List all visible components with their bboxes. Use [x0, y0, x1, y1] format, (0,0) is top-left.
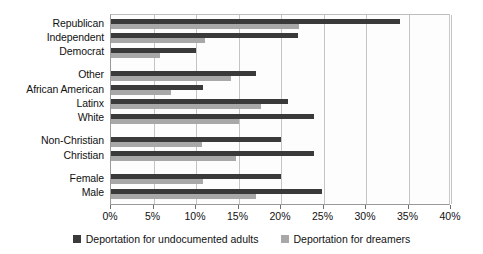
x-tick-label: 30% — [345, 210, 385, 222]
legend-item-adults[interactable]: Deportation for undocumented adults — [73, 233, 259, 245]
gridline — [366, 15, 367, 204]
category-label: Christian — [0, 150, 104, 161]
x-tick-mark — [408, 205, 409, 209]
category-label: Female — [0, 173, 104, 184]
x-tick-label: 20% — [260, 210, 300, 222]
category-label: Latinx — [0, 98, 104, 109]
category-label: Non-Christian — [0, 135, 104, 146]
gridline — [324, 15, 325, 204]
category-label: Democrat — [0, 46, 104, 57]
bar-dreamers — [111, 119, 239, 124]
bar-dreamers — [111, 156, 236, 161]
bar-dreamers — [111, 76, 231, 81]
x-tick-label: 35% — [388, 210, 428, 222]
bar-dreamers — [111, 53, 160, 58]
category-label: Republican — [0, 18, 104, 29]
x-tick-label: 40% — [430, 210, 470, 222]
bar-dreamers — [111, 104, 261, 109]
category-label: Other — [0, 69, 104, 80]
x-tick-mark — [450, 205, 451, 209]
category-label: Independent — [0, 32, 104, 43]
bar-dreamers — [111, 38, 205, 43]
plot-area — [110, 14, 450, 205]
legend-item-dreamers[interactable]: Deportation for dreamers — [281, 233, 411, 245]
x-tick-mark — [280, 205, 281, 209]
legend-label-dreamers: Deportation for dreamers — [294, 233, 411, 245]
gridline — [451, 15, 452, 204]
light-swatch-icon — [281, 235, 289, 243]
x-tick-label: 10% — [175, 210, 215, 222]
bar-dreamers — [111, 24, 299, 29]
bar-dreamers — [111, 179, 203, 184]
chart-legend: Deportation for undocumented adults Depo… — [0, 231, 483, 247]
bar-dreamers — [111, 142, 202, 147]
x-tick-label: 5% — [133, 210, 173, 222]
legend-label-adults: Deportation for undocumented adults — [86, 233, 259, 245]
category-axis: RepublicanIndependentDemocratOtherAfrica… — [0, 14, 106, 205]
bar-dreamers — [111, 90, 171, 95]
x-tick-mark — [110, 205, 111, 209]
gridline — [281, 15, 282, 204]
x-tick-mark — [365, 205, 366, 209]
category-label: African American — [0, 84, 104, 95]
x-tick-mark — [238, 205, 239, 209]
dark-swatch-icon — [73, 235, 81, 243]
x-axis: 0%5%10%15%20%25%30%35%40% — [110, 205, 450, 225]
x-tick-label: 25% — [303, 210, 343, 222]
x-tick-mark — [195, 205, 196, 209]
x-tick-label: 0% — [90, 210, 130, 222]
x-tick-label: 15% — [218, 210, 258, 222]
category-label: White — [0, 112, 104, 123]
x-tick-mark — [153, 205, 154, 209]
bar-chart: RepublicanIndependentDemocratOtherAfrica… — [0, 0, 483, 254]
gridline — [409, 15, 410, 204]
category-label: Male — [0, 187, 104, 198]
bar-dreamers — [111, 194, 256, 199]
x-tick-mark — [323, 205, 324, 209]
